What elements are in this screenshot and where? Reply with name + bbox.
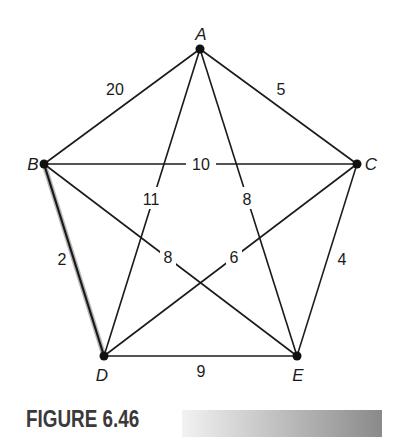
node-b <box>40 160 49 169</box>
weight-c-d: 6 <box>230 249 239 266</box>
node-label-b: B <box>27 155 38 174</box>
node-label-c: C <box>365 155 378 174</box>
node-a <box>196 45 205 54</box>
node-label-a: A <box>194 25 206 44</box>
node-label-d: D <box>96 366 108 385</box>
node-label-e: E <box>292 366 304 385</box>
figure-caption: FIGURE 6.46 <box>26 406 139 433</box>
weight-a-e: 8 <box>243 191 252 208</box>
weight-b-d: 2 <box>58 251 67 268</box>
weight-b-c: 10 <box>192 156 210 173</box>
weight-a-c: 5 <box>277 81 286 98</box>
edge-a-b <box>44 49 200 164</box>
node-e <box>293 352 302 361</box>
edge-b-d <box>44 164 104 356</box>
caption-gradient-bar <box>182 410 382 437</box>
edge-a-c <box>200 49 357 164</box>
node-c <box>353 160 362 169</box>
weight-a-d: 11 <box>143 191 160 208</box>
edge-c-e <box>297 164 357 356</box>
weighted-graph: 20 5 10 11 8 8 6 2 4 9 A B C D E <box>0 0 398 400</box>
weight-b-e: 8 <box>164 249 173 266</box>
node-d <box>100 352 109 361</box>
weight-d-e: 9 <box>197 363 206 380</box>
weight-c-e: 4 <box>338 251 347 268</box>
weight-a-b: 20 <box>106 81 124 98</box>
